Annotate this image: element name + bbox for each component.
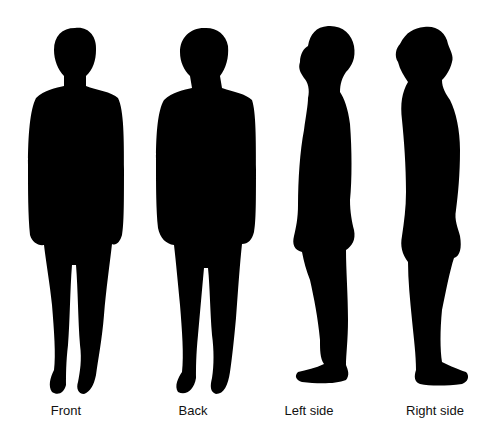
- left-side-view-silhouette: [270, 0, 380, 400]
- front-view-silhouette: [0, 0, 140, 400]
- left-side-silhouette-icon: [270, 0, 380, 400]
- right-side-silhouette-icon: [380, 0, 492, 400]
- front-label: Front: [51, 403, 81, 418]
- front-silhouette-icon: [0, 0, 140, 400]
- right-side-view-silhouette: [380, 0, 492, 400]
- left-side-label: Left side: [284, 403, 333, 418]
- back-silhouette-icon: [140, 0, 270, 400]
- back-view-silhouette: [140, 0, 270, 400]
- back-label: Back: [179, 403, 208, 418]
- right-side-label: Right side: [406, 403, 464, 418]
